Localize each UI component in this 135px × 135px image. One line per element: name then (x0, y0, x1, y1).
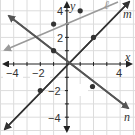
x-axis-label: x (124, 50, 131, 64)
line-n-label: n (124, 110, 130, 124)
point-n-2 (90, 84, 95, 89)
point-n-1 (51, 48, 56, 53)
x-tick-label: 4 (116, 67, 122, 79)
y-axis-label: y (69, 0, 76, 13)
x-tick-label: −2 (32, 67, 45, 79)
coordinate-graph: −4 −2 4 4 2 −2 −4 y x ℓ m n (0, 0, 135, 135)
point-m-1 (38, 88, 43, 93)
line-l-label: ℓ (104, 0, 109, 12)
y-tick-label: 2 (57, 32, 63, 44)
axes (4, 3, 131, 131)
x-tick-label: −4 (6, 67, 19, 79)
line-m-label: m (123, 7, 132, 21)
point-l-1 (51, 22, 56, 27)
point-l-2 (78, 8, 83, 13)
y-tick-label: 4 (57, 5, 63, 17)
y-tick-label: −4 (48, 112, 61, 124)
y-tick-label: −2 (48, 85, 61, 97)
point-m-2 (91, 35, 96, 40)
